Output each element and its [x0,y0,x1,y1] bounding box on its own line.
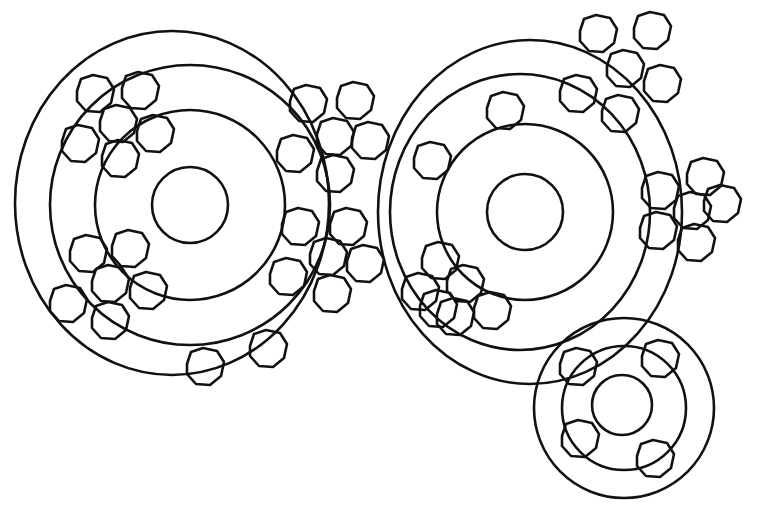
cluster-middle-top [277,82,389,192]
diagram-svg [0,0,763,523]
right-system [378,40,682,384]
cells-right-inner [414,92,524,179]
left-system [15,31,330,375]
diagram-canvas [0,0,763,523]
small-system [534,318,714,498]
cluster-left-bottom [50,230,167,339]
cluster-right-top [560,12,681,132]
cluster-right-lower [402,242,511,335]
cluster-left-top [62,72,174,177]
cluster-right-mid [640,158,741,261]
